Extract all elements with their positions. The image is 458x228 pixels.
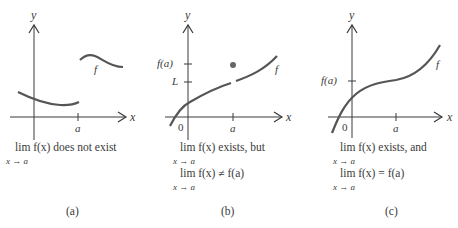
panel-c-curve-label: f <box>436 59 439 70</box>
panel-b-curve-label: f <box>275 64 278 75</box>
panel-c-y-axis-label: y <box>349 9 354 21</box>
panel-a-curve-right <box>80 55 123 67</box>
panel-a-curve-left <box>18 92 79 105</box>
panel-a-graph <box>10 25 126 140</box>
panel-b-label: (b) <box>221 206 234 218</box>
panel-b-curve-left <box>170 83 231 126</box>
panel-c-origin-label: 0 <box>342 122 348 133</box>
panel-b-point-fa <box>230 62 236 68</box>
panel-b-caption-line1: lim f(x) exists, but <box>180 142 265 154</box>
panel-c-curve <box>332 45 440 133</box>
panel-b-caption-line1-sub: x → a <box>173 157 195 166</box>
panel-b-x-axis-label: x <box>286 111 291 123</box>
panel-b-curve-right <box>236 56 277 81</box>
panel-a-caption-line1: lim f(x) does not exist <box>15 142 117 154</box>
panel-c-caption-line1: lim f(x) exists, and <box>340 142 427 154</box>
panel-c-label: (c) <box>385 206 398 218</box>
panel-a-curve-label: f <box>94 64 97 75</box>
panel-b-origin-label: 0 <box>178 122 184 133</box>
panel-b-y-axis-label: y <box>185 9 190 21</box>
panel-a-y-axis-label: y <box>31 9 36 21</box>
panel-c-tick-label-a: a <box>393 123 399 134</box>
panel-a-label: (a) <box>66 206 79 218</box>
panel-a-tick-label-a: a <box>75 123 81 134</box>
panel-c-x-axis-label: x <box>447 111 452 123</box>
panel-a-caption-line1-sub: x → a <box>6 157 28 166</box>
panel-c-caption-line1-sub: x → a <box>333 157 355 166</box>
panel-b-caption-line2-sub: x → a <box>173 183 195 192</box>
panel-b-caption-line2: lim f(x) ≠ f(a) <box>180 168 244 180</box>
panel-b-y-tick-label-L: L <box>172 76 178 87</box>
panel-b-y-tick-label-fa: f(a) <box>157 58 173 69</box>
limit-diagrams-svg <box>0 0 458 228</box>
panel-b-tick-label-a: a <box>230 123 236 134</box>
panel-c-caption-line2: lim f(x) = f(a) <box>340 168 404 180</box>
panel-a-x-axis-label: x <box>130 111 135 123</box>
panel-c-y-tick-label-fa: f(a) <box>321 75 337 86</box>
panel-c-caption-line2-sub: x → a <box>333 183 355 192</box>
